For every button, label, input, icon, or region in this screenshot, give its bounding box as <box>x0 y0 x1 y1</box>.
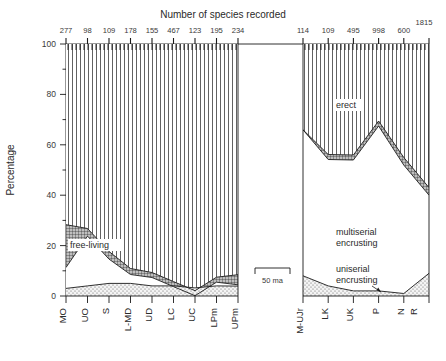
species-count-9: 114 <box>297 26 309 35</box>
y-tick-100: 100 <box>42 39 56 49</box>
chart-svg: Number of species recorded Percentage 0 … <box>0 0 446 361</box>
y-tick-20: 20 <box>47 241 57 251</box>
label-free-living: free-living <box>70 240 109 250</box>
species-count-4: 155 <box>146 26 159 35</box>
x-label-M-UJr: M-UJr <box>294 308 305 334</box>
label-erect: erect <box>336 100 357 110</box>
y-tick-0: 0 <box>51 291 56 301</box>
species-count-14: 1815 <box>416 18 433 27</box>
x-label-MO: MO <box>57 308 68 323</box>
species-count-13: 600 <box>397 26 410 35</box>
x-label-UK: UK <box>344 307 355 321</box>
label-multiserial-line2: encrusting <box>336 238 378 248</box>
species-count-11: 495 <box>347 26 360 35</box>
x-label-L-MD: L-MD <box>122 308 133 331</box>
species-count-6: 123 <box>189 26 202 35</box>
label-uniserial-line2: encrusting <box>336 275 378 285</box>
x-label-R: R <box>408 308 419 315</box>
x-label-N: N <box>395 308 406 315</box>
x-label-P: P <box>370 308 381 314</box>
top-species-counts-left: 277 98 109 178 155 467 123 195 234 <box>60 26 245 35</box>
x-label-UPm: UPm <box>229 308 240 329</box>
x-label-LC: LC <box>165 308 176 320</box>
y-tick-60: 60 <box>47 140 57 150</box>
y-tick-40: 40 <box>47 190 57 200</box>
x-label-LK: LK <box>319 307 330 319</box>
species-count-0: 277 <box>60 26 73 35</box>
species-count-5: 467 <box>167 26 180 35</box>
x-label-UC: UC <box>186 308 197 322</box>
x-label-UO: UO <box>79 308 90 322</box>
species-count-10: 109 <box>322 26 335 35</box>
y-axis-title: Percentage <box>5 144 16 196</box>
label-uniserial-line1: uniserial <box>336 264 370 274</box>
chart-figure: Number of species recorded Percentage 0 … <box>0 0 446 361</box>
x-label-UD: UD <box>143 308 154 322</box>
x-label-S: S <box>100 308 111 314</box>
species-count-8: 234 <box>232 26 245 35</box>
species-count-3: 178 <box>124 26 137 35</box>
scale-bar-label: 50 ma <box>262 276 284 285</box>
species-count-1: 98 <box>83 26 91 35</box>
species-count-7: 195 <box>210 26 223 35</box>
top-axis-title: Number of species recorded <box>160 9 286 20</box>
label-multiserial-line1: multiserial <box>336 227 377 237</box>
x-label-LPm: LPm <box>208 308 219 328</box>
right-panel-areas <box>303 44 429 296</box>
left-panel-areas <box>66 44 238 296</box>
species-count-12: 998 <box>372 26 385 35</box>
species-count-2: 109 <box>103 26 116 35</box>
y-tick-80: 80 <box>47 89 57 99</box>
